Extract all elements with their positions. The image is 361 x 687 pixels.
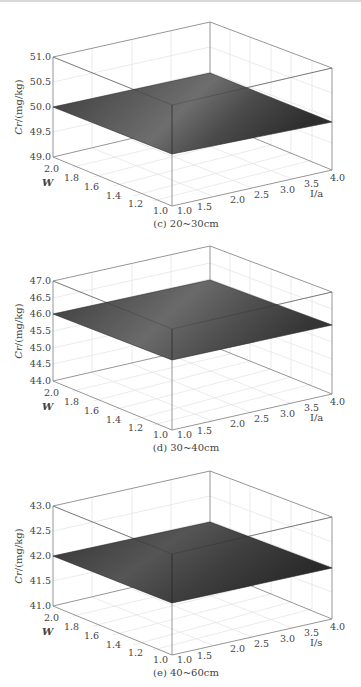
- svg-text:2.0: 2.0: [44, 163, 59, 174]
- svg-text:42.5: 42.5: [30, 525, 51, 536]
- svg-text:4.0: 4.0: [330, 172, 345, 183]
- svg-text:1.6: 1.6: [84, 630, 99, 641]
- surface-plot-c: 49.0 49.5 50.0 50.5 51.0 Cr/(mg/kg) 2.0 …: [0, 0, 361, 230]
- response-surface: [53, 73, 332, 154]
- svg-text:47.0: 47.0: [30, 275, 51, 286]
- svg-text:49.0: 49.0: [30, 151, 51, 162]
- svg-text:50.0: 50.0: [30, 101, 51, 112]
- response-surface: [53, 280, 332, 360]
- svg-text:1.0: 1.0: [153, 205, 168, 216]
- svg-text:1.8: 1.8: [64, 172, 79, 183]
- chart-panel-e: 41.0 41.5 42.0 42.5 43.0 Cr/(mg/kg) 2.0 …: [0, 456, 361, 687]
- w-axis-label: W: [42, 401, 55, 412]
- svg-text:3.0: 3.0: [280, 184, 295, 195]
- svg-text:1.5: 1.5: [197, 201, 212, 212]
- svg-text:1.0: 1.0: [177, 429, 192, 440]
- z-axis-label: Cr/(mg/kg): [13, 528, 24, 583]
- svg-text:41.0: 41.0: [30, 600, 51, 611]
- svg-text:41.5: 41.5: [30, 575, 51, 586]
- surface-plot-d: 44.0 44.5 45.0 45.5 46.0 46.5 47.0 Cr/(m…: [0, 228, 361, 458]
- svg-text:1.0: 1.0: [153, 429, 168, 440]
- svg-text:2.0: 2.0: [230, 643, 245, 654]
- svg-text:2.0: 2.0: [230, 418, 245, 429]
- svg-text:50.5: 50.5: [30, 76, 51, 87]
- svg-text:1.8: 1.8: [64, 621, 79, 632]
- chart-panel-d: 44.0 44.5 45.0 45.5 46.0 46.5 47.0 Cr/(m…: [0, 228, 361, 458]
- svg-text:2.0: 2.0: [44, 612, 59, 623]
- svg-text:1.0: 1.0: [153, 654, 168, 665]
- svg-text:1.4: 1.4: [106, 414, 121, 425]
- w-tick-labels: 2.0 1.8 1.6 1.4 1.2 1.0: [44, 387, 168, 440]
- svg-text:45.0: 45.0: [30, 342, 51, 353]
- svg-text:1.4: 1.4: [106, 190, 121, 201]
- svg-text:44.5: 44.5: [30, 358, 51, 369]
- svg-text:42.0: 42.0: [30, 550, 51, 561]
- svg-text:46.5: 46.5: [30, 292, 51, 303]
- z-axis-label: Cr/(mg/kg): [13, 79, 24, 134]
- svg-text:46.0: 46.0: [30, 308, 51, 319]
- w-axis-label: W: [42, 177, 55, 188]
- svg-text:49.5: 49.5: [30, 126, 51, 137]
- svg-text:1.4: 1.4: [106, 639, 121, 650]
- response-surface: [53, 522, 332, 603]
- svg-text:2.5: 2.5: [254, 189, 269, 200]
- z-tick-labels: 41.0 41.5 42.0 42.5 43.0: [30, 500, 51, 611]
- svg-text:1.2: 1.2: [128, 198, 143, 209]
- svg-text:2.5: 2.5: [254, 638, 269, 649]
- svg-text:45.5: 45.5: [30, 325, 51, 336]
- svg-text:4.0: 4.0: [330, 396, 345, 407]
- svg-text:3.0: 3.0: [280, 633, 295, 644]
- caption-d: (d) 30~40cm: [153, 442, 220, 453]
- svg-text:4.0: 4.0: [330, 621, 345, 632]
- svg-text:2.0: 2.0: [230, 194, 245, 205]
- svg-text:1.0: 1.0: [177, 654, 192, 665]
- svg-text:1.6: 1.6: [84, 181, 99, 192]
- svg-text:1.0: 1.0: [177, 205, 192, 216]
- z-tick-labels: 49.0 49.5 50.0 50.5 51.0: [30, 51, 51, 162]
- svg-text:1.5: 1.5: [197, 650, 212, 661]
- svg-text:1.2: 1.2: [128, 647, 143, 658]
- surface-plot-e: 41.0 41.5 42.0 42.5 43.0 Cr/(mg/kg) 2.0 …: [0, 456, 361, 687]
- i-axis-label: I/a: [310, 188, 323, 199]
- w-axis-label: W: [42, 626, 55, 637]
- i-axis-label: I/s: [310, 637, 322, 648]
- svg-text:51.0: 51.0: [30, 51, 51, 62]
- svg-text:43.0: 43.0: [30, 500, 51, 511]
- z-tick-labels: 44.0 44.5 45.0 45.5 46.0 46.5 47.0: [30, 275, 51, 386]
- svg-text:3.0: 3.0: [280, 408, 295, 419]
- svg-text:44.0: 44.0: [30, 375, 51, 386]
- svg-text:1.2: 1.2: [128, 422, 143, 433]
- svg-text:1.6: 1.6: [84, 405, 99, 416]
- chart-panel-c: 49.0 49.5 50.0 50.5 51.0 Cr/(mg/kg) 2.0 …: [0, 0, 361, 230]
- caption-e: (e) 40~60cm: [153, 667, 219, 678]
- svg-text:1.5: 1.5: [197, 425, 212, 436]
- z-axis-label: Cr/(mg/kg): [13, 303, 24, 358]
- svg-text:2.0: 2.0: [44, 387, 59, 398]
- svg-text:1.8: 1.8: [64, 396, 79, 407]
- svg-text:2.5: 2.5: [254, 413, 269, 424]
- i-axis-label: I/a: [310, 412, 323, 423]
